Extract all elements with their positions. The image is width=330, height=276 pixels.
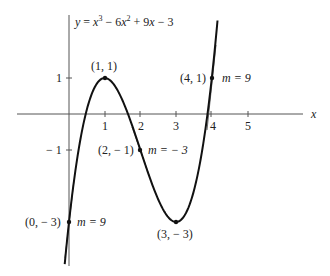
point-label-1-1: (1, 1) — [91, 59, 117, 73]
x-tick-label-3: 3 — [173, 119, 179, 133]
point-0-neg3 — [67, 220, 71, 224]
slope-label-4: m = 9 — [222, 71, 251, 85]
point-2-neg1 — [138, 148, 142, 152]
x-tick-label-1: 1 — [102, 119, 108, 133]
point-3-neg3 — [174, 220, 178, 224]
graph-canvas: y = x3 − 6x2 + 9x − 3 x 1 2 3 4 5 1 − 1 … — [0, 0, 330, 276]
cubic-function-diagram: y = x3 − 6x2 + 9x − 3 x 1 2 3 4 5 1 − 1 … — [0, 0, 330, 276]
point-label-4-1: (4, 1) — [180, 71, 206, 85]
y-tick-label-1: 1 — [56, 71, 62, 85]
point-label-2-neg1: (2, − 1) — [98, 143, 134, 157]
x-axis-label: x — [310, 107, 317, 121]
point-label-0-neg3: (0, − 3) — [25, 215, 61, 229]
point-label-3-neg3: (3, − 3) — [157, 227, 193, 241]
point-1-1 — [103, 76, 107, 80]
point-markers — [67, 76, 214, 224]
y-tick-label-neg1: − 1 — [46, 143, 62, 157]
x-tick-label-4: 4 — [210, 119, 216, 133]
point-4-1 — [210, 76, 214, 80]
x-tick-label-2: 2 — [138, 119, 144, 133]
equation-label: y = x3 − 6x2 + 9x − 3 — [74, 14, 173, 29]
x-tick-label-5: 5 — [245, 119, 251, 133]
slope-label-2: m = − 3 — [148, 143, 188, 157]
slope-label-0: m = 9 — [77, 215, 106, 229]
